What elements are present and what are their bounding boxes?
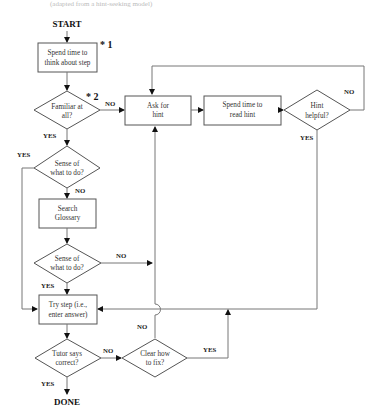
flowchart: (adapted from a hint-seeking model) STAR…: [0, 0, 380, 420]
svg-text:Ask for: Ask for: [147, 102, 169, 110]
top-text-fragment: (adapted from a hint-seeking model): [50, 0, 153, 8]
svg-text:Glossary: Glossary: [55, 214, 81, 222]
svg-text:Familiar at: Familiar at: [51, 103, 82, 111]
svg-text:helpful?: helpful?: [305, 112, 329, 120]
svg-text:Try step (i.e.,: Try step (i.e.,: [49, 301, 87, 309]
label-clear-no: NO: [137, 323, 147, 330]
node-sense-2: Sense of what to do?: [34, 244, 101, 283]
label-helpful-no: NO: [344, 88, 354, 95]
label-clear-yes: YES: [203, 346, 216, 353]
start-terminal: START: [52, 19, 81, 29]
edge-helpful-yes-try: [98, 130, 317, 309]
svg-text:correct?: correct?: [55, 359, 78, 367]
node-try-step: Try step (i.e., enter answer): [39, 295, 97, 324]
label-tutor-no: NO: [103, 347, 113, 354]
svg-text:hint: hint: [152, 111, 163, 119]
svg-text:Tutor says: Tutor says: [52, 350, 82, 358]
svg-text:Sense of: Sense of: [55, 160, 80, 168]
node-ask-hint: Ask for hint: [125, 96, 191, 125]
svg-text:enter answer): enter answer): [49, 311, 89, 319]
done-terminal: DONE: [54, 397, 80, 407]
node-sense-1: Sense of what to do?: [34, 146, 100, 188]
node-think: Spend time to think about step: [38, 43, 97, 72]
svg-text:to fix?: to fix?: [146, 359, 165, 367]
svg-text:Spend time to: Spend time to: [48, 49, 88, 57]
svg-text:what to do?: what to do?: [50, 264, 84, 272]
label-familiar-yes: YES: [43, 132, 56, 139]
svg-text:think about step: think about step: [45, 59, 91, 67]
label-helpful-yes: YES: [300, 134, 313, 141]
label-sense2-no: NO: [116, 252, 126, 259]
node-clear-fix: Clear how to fix?: [122, 339, 187, 377]
svg-text:what to do?: what to do?: [50, 169, 84, 177]
edge-sense1-yes: [22, 168, 37, 309]
svg-text:Clear how: Clear how: [140, 350, 171, 358]
label-tutor-yes: YES: [41, 380, 54, 387]
node-read-hint: Spend time to read hint: [204, 96, 281, 125]
svg-text:Hint: Hint: [311, 102, 324, 110]
node-glossary: Search Glossary: [39, 199, 96, 228]
label-sense2-yes: YES: [41, 282, 54, 289]
annotation-mark-2: * 2: [86, 91, 99, 102]
label-familiar-no: NO: [105, 100, 115, 107]
svg-text:Sense of: Sense of: [55, 255, 80, 263]
annotation-mark-1: * 1: [100, 39, 113, 50]
label-sense1-yes: YES: [17, 151, 30, 158]
node-hint-helpful: Hint helpful?: [284, 90, 350, 130]
svg-text:Spend time to: Spend time to: [223, 101, 263, 109]
label-sense1-no: NO: [75, 187, 85, 194]
svg-text:Search: Search: [58, 205, 78, 213]
svg-text:read hint: read hint: [230, 111, 255, 119]
svg-text:all?: all?: [62, 112, 72, 120]
node-tutor-correct: Tutor says correct?: [35, 339, 101, 377]
edge-clear-no-up: [155, 127, 161, 338]
